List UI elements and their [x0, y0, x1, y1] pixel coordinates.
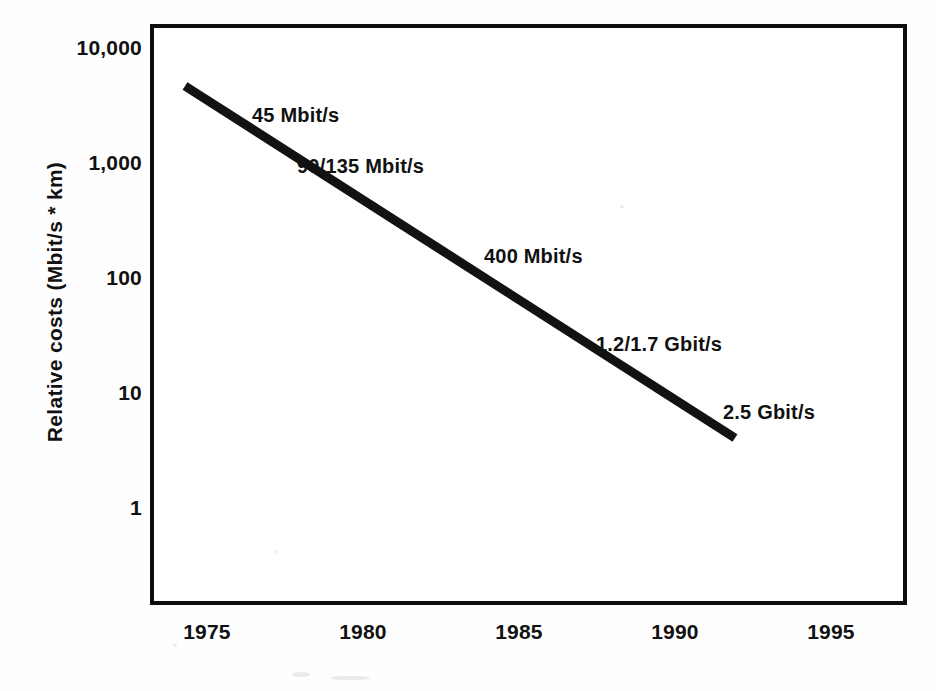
x-tick-label: 1975 — [147, 620, 267, 644]
scan-speckle — [292, 672, 310, 677]
scan-speckle — [620, 205, 624, 208]
x-tick-label: 1980 — [303, 620, 423, 644]
chart-figure: Relative costs (Mbit/s * km) 10,000 1,00… — [0, 0, 936, 691]
x-tick-label: 1990 — [615, 620, 735, 644]
scan-speckle — [330, 676, 370, 680]
annotation-90-135mbit: 90/135 Mbit/s — [297, 155, 424, 178]
annotation-45mbit: 45 Mbit/s — [252, 104, 339, 127]
x-tick-label: 1995 — [771, 620, 891, 644]
scan-speckle — [173, 644, 177, 647]
scan-speckle — [275, 550, 278, 553]
x-tick-label: 1985 — [459, 620, 579, 644]
annotation-400mbit: 400 Mbit/s — [484, 245, 583, 268]
annotation-2-5gbit: 2.5 Gbit/s — [723, 401, 815, 424]
x-axis-tick-labels: 1975 1980 1985 1990 1995 — [0, 0, 936, 691]
annotation-1-2-1-7gbit: 1.2/1.7 Gbit/s — [596, 333, 722, 356]
